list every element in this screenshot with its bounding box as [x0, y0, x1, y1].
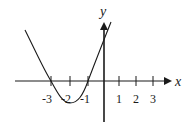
tick-label-neg1: -1 [80, 92, 90, 106]
function-graph: -3 -2 -1 1 2 3 x y [0, 0, 187, 126]
x-axis-label: x [174, 74, 182, 89]
tick-label-3: 3 [150, 92, 156, 106]
tick-label-1: 1 [116, 92, 122, 106]
tick-label-neg2: -2 [61, 92, 71, 106]
tick-label-neg3: -3 [42, 92, 52, 106]
y-axis-label: y [98, 4, 107, 19]
tick-label-2: 2 [133, 92, 139, 106]
parabola-curve [25, 22, 111, 103]
